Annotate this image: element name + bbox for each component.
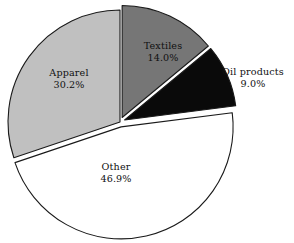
pie-slices (8, 5, 236, 238)
pie-chart: Textiles 14.0% Oil products 9.0% Other 4… (0, 0, 294, 243)
pie-chart-canvas (0, 0, 294, 243)
